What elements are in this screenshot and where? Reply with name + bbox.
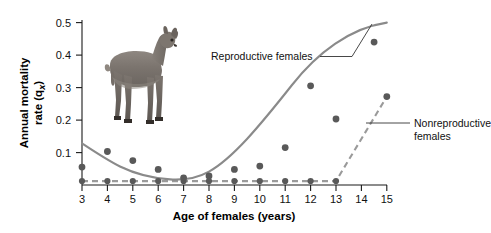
data-point — [282, 178, 288, 184]
x-tick-label-10: 10 — [254, 193, 266, 205]
data-point — [307, 82, 314, 89]
x-tick-label-8: 8 — [206, 193, 212, 205]
data-point — [257, 178, 263, 184]
nonreproductive-females-label-line1: Nonreproductive — [414, 117, 491, 129]
x-axis-title: Age of females (years) — [173, 210, 296, 222]
data-point — [231, 178, 237, 184]
x-tick-label-5: 5 — [130, 193, 136, 205]
data-point — [371, 39, 378, 46]
data-point — [129, 157, 136, 164]
data-point — [256, 163, 263, 170]
data-point — [104, 178, 110, 184]
data-point — [155, 166, 162, 173]
nonreproductive-females-annotation: Nonreproductive females — [366, 117, 491, 142]
data-point — [333, 178, 339, 184]
x-tick-label-14: 14 — [355, 193, 367, 205]
data-point — [104, 148, 111, 155]
data-point — [308, 178, 314, 184]
x-tick-label-3: 3 — [79, 193, 85, 205]
nonreproductive-females-label-line2: females — [414, 130, 451, 142]
reproductive-females-label: Reproductive females — [211, 50, 313, 62]
x-tick-label-6: 6 — [155, 193, 161, 205]
x-axis: 3 4 5 6 7 8 9 10 11 12 13 14 15 — [79, 185, 393, 205]
data-point — [231, 166, 238, 173]
data-point — [180, 174, 187, 181]
y-tick-label-0.3: 0.3 — [56, 82, 71, 94]
series-reproductive-females — [82, 23, 387, 180]
data-point — [383, 93, 390, 100]
x-tick-label-12: 12 — [304, 193, 316, 205]
y-axis: 0.5 0.4 0.3 0.2 0.1 — [56, 17, 82, 185]
x-tick-label-13: 13 — [330, 193, 342, 205]
y-axis-title-line2: rate (qx) — [32, 81, 47, 125]
reproductive-fit-line — [82, 23, 387, 180]
y-axis-title: Annual mortality rate (qx) — [18, 57, 47, 148]
data-point — [79, 178, 85, 184]
y-tick-label-0.4: 0.4 — [56, 49, 71, 61]
figure-container: 0.5 0.4 0.3 0.2 0.1 Annual mortality rat… — [0, 0, 491, 233]
x-tick-label-4: 4 — [104, 193, 110, 205]
x-tick-label-11: 11 — [279, 193, 290, 205]
data-point — [333, 116, 340, 123]
y-tick-label-0.2: 0.2 — [56, 114, 71, 126]
reproductive-females-annotation: Reproductive females — [211, 24, 372, 62]
data-point — [282, 144, 289, 151]
y-axis-title-line1: Annual mortality — [18, 57, 30, 148]
data-point — [79, 164, 86, 171]
y-tick-label-0.5: 0.5 — [56, 17, 71, 29]
x-tick-label-7: 7 — [181, 193, 187, 205]
data-point — [206, 173, 213, 180]
x-tick-label-15: 15 — [381, 193, 393, 205]
data-point — [130, 178, 136, 184]
x-tick-label-9: 9 — [231, 193, 237, 205]
y-tick-label-0.1: 0.1 — [56, 147, 71, 159]
data-point — [155, 178, 161, 184]
